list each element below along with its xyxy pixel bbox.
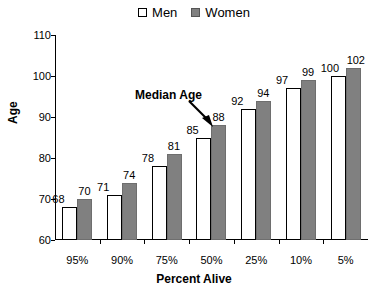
legend-label-men: Men — [152, 6, 177, 19]
x-tick-label: 90% — [100, 254, 145, 266]
legend-label-women: Women — [205, 6, 250, 19]
bar-chart: Men Women Age 60708090100110 687095%7174… — [0, 0, 388, 292]
bar-value-label: 81 — [168, 141, 180, 152]
bar-women — [301, 80, 316, 240]
x-tick-mark — [323, 240, 324, 244]
legend-item-women: Women — [191, 6, 250, 19]
bar-men — [241, 109, 256, 240]
x-tick-label: 50% — [189, 254, 234, 266]
bar-value-label: 99 — [302, 67, 314, 78]
bar-value-label: 94 — [257, 88, 269, 99]
bar-men — [62, 207, 77, 240]
bar-group: 858850% — [189, 35, 234, 240]
bar-group: 687095% — [55, 35, 100, 240]
bar-women — [211, 125, 226, 240]
bar-men — [196, 138, 211, 241]
bar-men — [152, 166, 167, 240]
bar-women — [167, 154, 182, 240]
bar-value-label: 74 — [123, 170, 135, 181]
bar-value-label: 78 — [142, 153, 154, 164]
bar-women — [122, 183, 137, 240]
bar-women — [256, 101, 271, 240]
bar-value-label: 71 — [97, 182, 109, 193]
x-tick-label: 5% — [323, 254, 368, 266]
bar-value-label: 100 — [321, 63, 339, 74]
x-tick-mark — [189, 240, 190, 244]
x-axis-title: Percent Alive — [0, 272, 388, 286]
bar-group: 1001025% — [323, 35, 368, 240]
y-tick-label: 100 — [33, 70, 51, 82]
x-tick-label: 75% — [144, 254, 189, 266]
bar-men — [286, 88, 301, 240]
bar-men — [331, 76, 346, 240]
legend-item-men: Men — [138, 6, 177, 19]
x-tick-mark — [100, 240, 101, 244]
bar-value-label: 70 — [78, 186, 90, 197]
x-tick-label: 10% — [279, 254, 324, 266]
x-tick-mark — [279, 240, 280, 244]
chart-legend: Men Women — [0, 6, 388, 19]
bar-group: 929425% — [234, 35, 279, 240]
legend-swatch-women-icon — [191, 8, 200, 17]
y-tick-mark — [51, 240, 55, 241]
bar-value-label: 97 — [276, 75, 288, 86]
y-tick-label: 70 — [39, 193, 51, 205]
bar-group: 979910% — [279, 35, 324, 240]
bar-women — [346, 68, 361, 240]
bar-value-label: 102 — [347, 55, 365, 66]
x-tick-label: 95% — [55, 254, 100, 266]
y-axis-title: Age — [6, 101, 20, 124]
x-tick-mark — [144, 240, 145, 244]
legend-swatch-men-icon — [138, 8, 147, 17]
median-age-arrow-icon — [186, 98, 220, 130]
y-tick-label: 110 — [33, 29, 51, 41]
bar-group: 788175% — [144, 35, 189, 240]
y-tick-label: 60 — [39, 234, 51, 246]
bar-women — [77, 199, 92, 240]
y-tick-label: 80 — [39, 152, 51, 164]
bar-value-label: 92 — [231, 96, 243, 107]
bar-value-label: 68 — [52, 194, 64, 205]
plot-area: 60708090100110 687095%717490%788175%8588… — [55, 35, 368, 240]
bar-men — [107, 195, 122, 240]
y-tick-label: 90 — [39, 111, 51, 123]
bar-group: 717490% — [100, 35, 145, 240]
x-tick-mark — [234, 240, 235, 244]
x-tick-label: 25% — [234, 254, 279, 266]
